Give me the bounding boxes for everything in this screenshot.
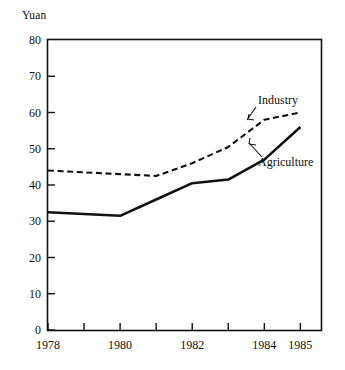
x-axis-ticks: 19781980198219841985	[36, 323, 312, 352]
plot-area: 01020304050607080 19781980198219841985 I…	[0, 0, 345, 370]
y-tick-label: 70	[29, 69, 41, 83]
series-label-industry: Industry	[258, 93, 298, 107]
x-tick-label: 1984	[252, 338, 276, 352]
y-tick-label: 60	[29, 106, 41, 120]
series-label-agriculture: Agriculture	[258, 155, 313, 169]
y-tick-label: 50	[29, 142, 41, 156]
chart-figure: Yuan 01020304050607080 19781980198219841…	[0, 0, 345, 370]
y-tick-label: 0	[35, 323, 41, 337]
x-tick-label: 1985	[288, 338, 312, 352]
x-tick-label: 1978	[36, 338, 60, 352]
agriculture-leader-arrow	[249, 138, 256, 145]
x-tick-label: 1980	[108, 338, 132, 352]
y-tick-label: 10	[29, 287, 41, 301]
line-chart-svg: 01020304050607080 19781980198219841985 I…	[0, 0, 345, 370]
y-axis-ticks: 01020304050607080	[29, 33, 55, 337]
y-tick-label: 80	[29, 33, 41, 47]
axis-frame	[48, 40, 322, 331]
x-tick-label: 1982	[180, 338, 204, 352]
y-tick-label: 30	[29, 214, 41, 228]
series-line-agriculture	[48, 127, 300, 216]
y-tick-label: 40	[29, 178, 41, 192]
y-tick-label: 20	[29, 251, 41, 265]
